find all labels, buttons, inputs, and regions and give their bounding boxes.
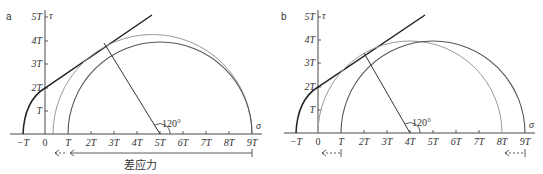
sigma-tick: T: [338, 136, 345, 147]
tau-tick-4T: 4T: [304, 34, 316, 45]
sigma-tick: 9T: [520, 136, 532, 147]
shift-arrow-right: [505, 149, 525, 157]
sigma-tick: 8T: [497, 136, 509, 147]
tau-tick-2T: 2T: [304, 81, 316, 92]
angle-label: 120°: [162, 118, 181, 129]
tau-axis-label: τ: [322, 10, 326, 21]
radius-line: [104, 43, 160, 134]
sigma-tick: 3T: [108, 137, 121, 148]
panel-a: a τ T 2T 3T 4T 5T σ −T 0: [6, 10, 262, 172]
tau-tick-2T: 2T: [31, 82, 43, 93]
sigma-tick: −T: [290, 136, 304, 147]
radius-line: [364, 53, 410, 133]
tau-tick-3T: 3T: [30, 58, 43, 69]
sigma-tick: 6T: [451, 136, 463, 147]
sigma-axis-label: σ: [529, 119, 535, 130]
sigma-tick: 2T: [86, 137, 98, 148]
sigma-tick: 5T: [428, 136, 440, 147]
sigma-tick: 8T: [224, 137, 236, 148]
tau-tick-T: T: [309, 104, 316, 115]
failure-envelope: [23, 15, 152, 134]
panel-a-label: a: [6, 11, 12, 22]
panel-b-label: b: [281, 11, 287, 22]
sigma-axis-label: σ: [256, 120, 262, 131]
differential-stress-arrow: [55, 149, 252, 157]
sigma-tick: T: [65, 137, 72, 148]
sigma-tick: 4T: [405, 136, 417, 147]
gray-mohr-circle: [318, 41, 502, 133]
tau-tick-5T: 5T: [304, 11, 316, 22]
sigma-tick: 7T: [474, 136, 486, 147]
sigma-tick: 2T: [359, 136, 371, 147]
failure-envelope: [296, 15, 425, 133]
sigma-tick: 7T: [201, 137, 213, 148]
sigma-tick: −T: [17, 137, 31, 148]
sigma-tick: 5T: [155, 137, 167, 148]
sigma-tick: 6T: [178, 137, 190, 148]
sigma-tick: 9T: [247, 137, 259, 148]
panel-b: b τ T 2T 3T 4T 5T σ −T 0 T 2T: [281, 10, 535, 157]
mohr-circle-diagrams: a τ T 2T 3T 4T 5T σ −T 0: [0, 0, 543, 174]
dark-mohr-circle: [68, 42, 252, 134]
tau-tick-5T: 5T: [31, 11, 43, 22]
sigma-tick: 3T: [381, 136, 394, 147]
sigma-tick: 0: [316, 136, 321, 147]
shift-arrow-left: [322, 149, 341, 157]
differential-stress-label: 差应力: [124, 158, 157, 172]
tau-tick-T: T: [36, 105, 43, 116]
tau-tick-4T: 4T: [31, 35, 43, 46]
dark-mohr-circle: [341, 41, 525, 133]
sigma-tick: 0: [43, 137, 48, 148]
angle-label: 120°: [412, 117, 431, 128]
tau-axis-label: τ: [49, 10, 53, 21]
tau-tick-3T: 3T: [303, 57, 316, 68]
sigma-tick: 4T: [132, 137, 144, 148]
